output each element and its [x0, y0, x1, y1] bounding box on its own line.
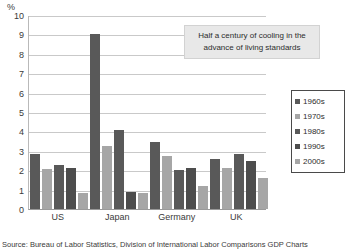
bar-japan-1970s: [102, 146, 112, 209]
bar-group-japan: [89, 16, 149, 209]
legend-item-1970s[interactable]: 1970s: [295, 109, 342, 124]
bar-japan-1960s: [90, 34, 100, 209]
y-axis-tick-9: 9: [2, 30, 24, 40]
annotation-line-2: advance of living standards: [190, 42, 314, 54]
bar-uk-1990s: [246, 161, 256, 209]
legend-swatch-icon-2000s: [295, 159, 300, 164]
bar-us-1970s: [42, 169, 52, 209]
legend-swatch-icon-1960s: [295, 99, 300, 104]
legend-label-2000s: 2000s: [303, 157, 325, 166]
y-axis-tick-2: 2: [2, 166, 24, 176]
chart-container: % 109876543210 USJapanGermanyUK Half a c…: [0, 0, 349, 251]
y-axis-tick-10: 10: [2, 11, 24, 21]
legend-swatch-icon-1990s: [295, 144, 300, 149]
bar-japan-1990s: [126, 192, 136, 209]
legend-label-1960s: 1960s: [303, 97, 325, 106]
x-axis-label-uk: UK: [207, 212, 267, 222]
y-axis-tick-8: 8: [2, 50, 24, 60]
bar-germany-1990s: [186, 168, 196, 209]
legend-swatch-icon-1980s: [295, 129, 300, 134]
source-caption: Source: Bureau of Labor Statistics, Divi…: [2, 240, 308, 249]
y-axis-tick-1: 1: [2, 186, 24, 196]
y-axis-tick-7: 7: [2, 69, 24, 79]
legend-item-1960s[interactable]: 1960s: [295, 94, 342, 109]
bar-uk-1960s: [210, 159, 220, 209]
bar-us-1990s: [66, 168, 76, 209]
bar-us-1960s: [30, 154, 40, 209]
bar-japan-1980s: [114, 130, 124, 209]
legend: 1960s1970s1980s1990s2000s: [291, 90, 345, 173]
legend-swatch-icon-1970s: [295, 114, 300, 119]
legend-item-1990s[interactable]: 1990s: [295, 139, 342, 154]
legend-label-1970s: 1970s: [303, 112, 325, 121]
y-axis-tick-6: 6: [2, 89, 24, 99]
bar-germany-1980s: [174, 170, 184, 209]
x-axis-label-germany: Germany: [147, 212, 207, 222]
bar-us-1980s: [54, 165, 64, 209]
legend-label-1980s: 1980s: [303, 127, 325, 136]
x-axis-label-us: US: [28, 212, 88, 222]
bar-germany-1970s: [162, 156, 172, 209]
annotation-callout: Half a century of cooling in the advance…: [184, 25, 320, 59]
bar-germany-2000s: [198, 186, 208, 209]
annotation-line-1: Half a century of cooling in the: [190, 30, 314, 42]
bar-group-us: [29, 16, 89, 209]
y-axis: 109876543210: [0, 16, 27, 210]
legend-item-1980s[interactable]: 1980s: [295, 124, 342, 139]
bar-japan-2000s: [138, 193, 148, 209]
y-axis-tick-5: 5: [2, 108, 24, 118]
bar-uk-1970s: [222, 168, 232, 209]
bar-uk-1980s: [234, 154, 244, 209]
y-axis-tick-4: 4: [2, 127, 24, 137]
y-axis-tick-0: 0: [2, 205, 24, 215]
legend-item-2000s[interactable]: 2000s: [295, 154, 342, 169]
bar-germany-1960s: [150, 142, 160, 209]
bar-uk-2000s: [258, 178, 268, 209]
x-axis-label-japan: Japan: [88, 212, 148, 222]
x-axis: USJapanGermanyUK: [28, 212, 266, 222]
legend-label-1990s: 1990s: [303, 142, 325, 151]
y-axis-tick-3: 3: [2, 147, 24, 157]
bar-us-2000s: [78, 193, 88, 209]
